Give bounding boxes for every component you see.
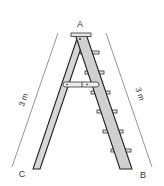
hinge-pin	[79, 38, 81, 40]
point-label-A: A	[77, 19, 83, 29]
measure-label-right: 3 m	[133, 86, 146, 102]
ladder-cross-brace	[63, 82, 99, 87]
ladder-top-cap	[71, 33, 91, 37]
ladder-left-leg	[33, 36, 83, 169]
measure-label-left: 3 m	[17, 92, 30, 108]
brace-bolt	[66, 84, 68, 86]
stepladder-diagram: A B C 3 m 3 m	[0, 0, 164, 186]
ladder-right-leg	[75, 34, 132, 169]
brace-bolt	[86, 84, 88, 86]
point-label-C: C	[19, 169, 26, 179]
point-label-B: B	[140, 170, 146, 180]
